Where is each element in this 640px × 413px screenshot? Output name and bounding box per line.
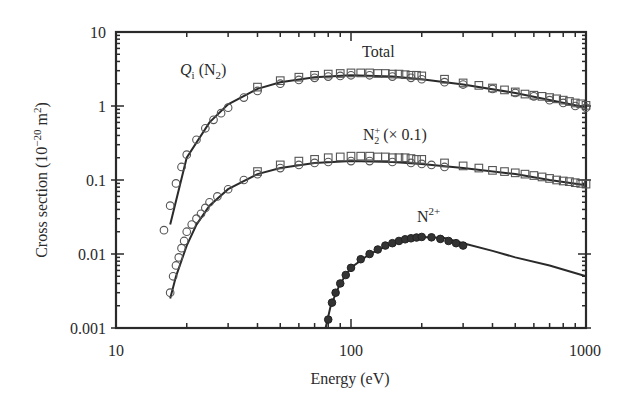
y-tick-1: 1 bbox=[98, 98, 106, 115]
annotation-n-2plus: N2+ bbox=[417, 205, 440, 225]
x-tick-labels: 10 100 1000 bbox=[108, 342, 601, 359]
annotation-total: Total bbox=[362, 43, 395, 60]
cross-section-chart: 10 1 0.1 0.01 0.001 10 100 1000 Energy (… bbox=[0, 0, 640, 413]
y-tick-labels: 10 1 0.1 0.01 0.001 bbox=[70, 24, 106, 337]
x-tick-1000: 1000 bbox=[569, 342, 601, 359]
y-tick-10: 10 bbox=[90, 24, 106, 41]
data-series bbox=[160, 69, 590, 328]
annotation-qi-n2: Qi (N2) bbox=[180, 61, 226, 81]
y-tick-0.01: 0.01 bbox=[78, 246, 106, 263]
y-tick-0.001: 0.001 bbox=[70, 320, 106, 337]
series-n2-x0-1-squares bbox=[254, 152, 590, 188]
series-n2-doubly-charged-fit-line bbox=[326, 237, 586, 328]
x-axis-title: Energy (eV) bbox=[310, 370, 389, 388]
series-n2-x0-1-fit-line bbox=[170, 161, 586, 299]
x-tick-10: 10 bbox=[108, 342, 124, 359]
x-tick-100: 100 bbox=[339, 342, 363, 359]
y-axis-title: Cross section (10−20 m2) bbox=[31, 102, 51, 258]
series-n2-x0-1-circles-diamonds bbox=[166, 157, 448, 296]
y-tick-0.1: 0.1 bbox=[86, 172, 106, 189]
annotation-n2-plus: N+2 (× 0.1) bbox=[363, 125, 427, 146]
series-n2-doubly-charged-filled-circles bbox=[324, 233, 466, 323]
